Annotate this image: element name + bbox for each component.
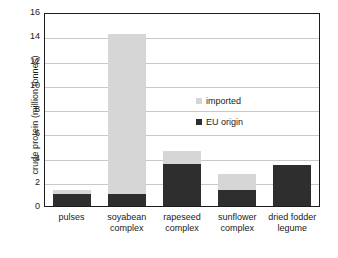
y-tick-label: 14 [16,32,40,41]
y-tick-label: 10 [16,81,40,90]
bar-segment-eu-origin[interactable] [108,194,146,206]
bar-chart-figure: crude protein (million tonnes) 024681012… [0,0,338,258]
x-tick-label: dried fodderlegume [265,212,320,234]
legend-swatch-icon [196,119,202,125]
y-tick-label: 4 [16,154,40,163]
x-tick-label: pulses [44,212,99,234]
legend-swatch-icon [196,98,202,104]
x-tick-label: sunflowercomplex [210,212,265,234]
bar-segment-eu-origin[interactable] [218,190,256,206]
bar-group[interactable] [273,14,311,206]
bar-segment-imported[interactable] [163,151,201,163]
chart-legend: importedEU origin [196,96,243,138]
y-tick-label: 8 [16,105,40,114]
x-tick-label-line: legume [265,223,320,234]
x-tick-label-line: complex [210,223,265,234]
x-tick-label-line: pulses [44,212,99,223]
bar-segment-eu-origin[interactable] [273,165,311,206]
bar-segment-eu-origin[interactable] [53,194,91,206]
bar-group[interactable] [53,14,91,206]
x-tick-label-line: complex [154,223,209,234]
x-tick-label: soyabeancomplex [99,212,154,234]
y-tick-label: 16 [16,8,40,17]
x-tick-label-line: sunflower [210,212,265,223]
y-tick-label: 12 [16,57,40,66]
legend-entry: imported [196,96,243,106]
bar-segment-eu-origin[interactable] [163,164,201,206]
plot-area [44,13,320,207]
bars-container [45,14,319,206]
y-tick-label: 0 [16,202,40,211]
x-axis-tick-labels: pulsessoyabeancomplexrapeseedcomplexsunf… [44,212,320,234]
x-tick-label-line: soyabean [99,212,154,223]
x-tick-label-line: dried fodder [265,212,320,223]
bar-segment-imported[interactable] [218,174,256,190]
x-tick-label: rapeseedcomplex [154,212,209,234]
y-axis-tick-labels: 0246810121416 [16,13,40,207]
legend-label: EU origin [206,117,243,127]
y-tick-label: 2 [16,178,40,187]
bar-segment-imported[interactable] [108,34,146,195]
legend-label: imported [206,96,241,106]
y-tick-label: 6 [16,129,40,138]
bar-group[interactable] [108,14,146,206]
x-tick-label-line: complex [99,223,154,234]
x-tick-label-line: rapeseed [154,212,209,223]
legend-entry: EU origin [196,117,243,127]
